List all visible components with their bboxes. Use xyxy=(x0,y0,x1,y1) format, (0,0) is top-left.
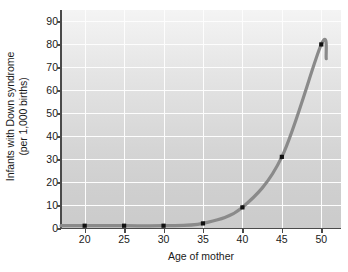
x-tick-label: 30 xyxy=(144,233,184,245)
y-tick-label: 90 xyxy=(34,16,58,27)
y-axis-title: Infants with Down syndrome (per 1,000 bi… xyxy=(0,0,34,232)
x-tick-label: 35 xyxy=(183,233,223,245)
y-tick-label: 80 xyxy=(34,39,58,50)
y-axis-title-line-2: (per 1,000 births) xyxy=(17,51,30,180)
data-point-marker xyxy=(240,205,244,209)
trend-curve xyxy=(61,39,326,226)
y-tick-label: 10 xyxy=(34,200,58,211)
x-tick-label: 50 xyxy=(301,233,341,245)
data-point-marker xyxy=(280,155,284,159)
data-point-marker xyxy=(83,224,87,228)
data-point-markers xyxy=(83,42,324,227)
y-tick-label: 30 xyxy=(34,154,58,165)
plot-area xyxy=(61,10,341,228)
data-series-layer xyxy=(61,10,341,228)
y-axis-title-line-1: Infants with Down syndrome xyxy=(5,51,17,180)
data-point-marker xyxy=(201,221,205,225)
x-tick-label: 40 xyxy=(222,233,262,245)
y-tick-label: 20 xyxy=(34,177,58,188)
data-point-marker xyxy=(319,42,323,46)
x-tick-label: 25 xyxy=(104,233,144,245)
y-tick-label: 60 xyxy=(34,85,58,96)
chart-figure: Infants with Down syndrome (per 1,000 bi… xyxy=(0,0,348,272)
x-axis-title: Age of mother xyxy=(61,250,341,262)
y-axis-tick-labels: 0102030405060708090 xyxy=(34,10,58,228)
y-tick-mark xyxy=(57,228,61,230)
y-tick-label: 40 xyxy=(34,131,58,142)
y-tick-label: 50 xyxy=(34,108,58,119)
data-point-marker xyxy=(122,224,126,228)
y-tick-label: 0 xyxy=(34,223,58,234)
y-tick-label: 70 xyxy=(34,62,58,73)
x-axis-tick-labels: 20253035404550 xyxy=(61,233,341,247)
x-tick-label: 45 xyxy=(262,233,302,245)
data-point-marker xyxy=(161,224,165,228)
x-tick-label: 20 xyxy=(65,233,105,245)
